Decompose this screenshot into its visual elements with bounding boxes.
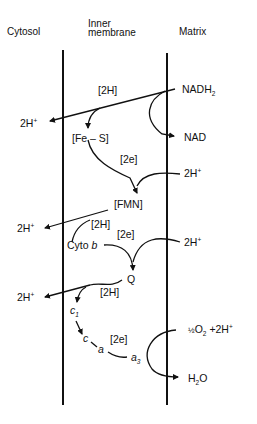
arrow-nadh-to-nad xyxy=(149,91,174,136)
label-half-o2-plus-2h: ½O2 +2H+ xyxy=(188,324,233,336)
label-2e-3: [2e] xyxy=(110,334,128,345)
label-2h-mid: [2H] xyxy=(91,219,110,230)
label-q: Q xyxy=(127,274,135,285)
label-2h-in-2: 2H+ xyxy=(184,237,201,248)
header-cytosol: Cytosol xyxy=(7,27,40,36)
label-c: c xyxy=(83,333,88,344)
link-c-to-a xyxy=(91,342,97,347)
label-nad: NAD xyxy=(184,132,206,143)
label-2h-top: [2H] xyxy=(98,85,117,96)
arrow-cyto-b-to-q xyxy=(104,245,133,270)
label-2e-2: [2e] xyxy=(117,229,135,240)
label-fe-s: [Fe – S] xyxy=(72,133,109,144)
arrow-2h-in-to-fmn xyxy=(137,173,180,186)
label-nadh2: NADH2 xyxy=(182,84,215,95)
label-2h-out-1: 2H+ xyxy=(20,118,37,129)
label-2h-out-3: 2H+ xyxy=(17,292,34,303)
label-a: a xyxy=(98,344,104,355)
electron-transport-diagram xyxy=(0,0,257,424)
label-cyto-b: Cyto b xyxy=(67,240,97,251)
label-2h-out-2: 2H+ xyxy=(17,223,34,234)
label-2h-in-1: 2H+ xyxy=(184,168,201,179)
arrow-to-c1 xyxy=(77,287,86,302)
arrow-fes-to-fmn xyxy=(88,140,137,193)
label-h2o: H2O xyxy=(188,373,207,384)
label-2e-1: [2e] xyxy=(120,154,138,165)
header-inner-line2: membrane xyxy=(88,28,136,37)
label-a3: a3 xyxy=(131,352,140,363)
label-2h-low: [2H] xyxy=(100,287,119,298)
label-c1: c1 xyxy=(70,305,79,316)
header-matrix: Matrix xyxy=(179,27,206,36)
arrow-2h-in-to-q xyxy=(133,239,180,262)
link-a-to-a3 xyxy=(108,352,127,357)
label-fmn: [FMN] xyxy=(114,199,143,210)
arrow-o2-to-h2o xyxy=(147,330,178,377)
arrow-c1-to-c xyxy=(76,321,82,334)
